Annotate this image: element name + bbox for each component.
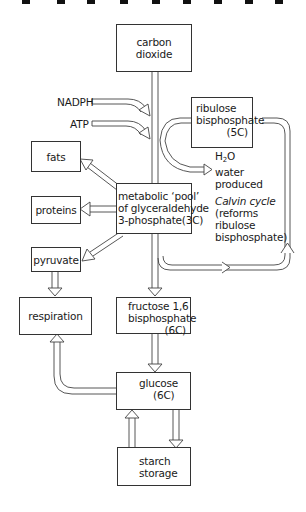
node-carbon-dioxide: carbon dioxide — [116, 24, 192, 72]
ribulose-line2: bisphosphate — [196, 114, 252, 126]
arrow-pool-to-fats — [80, 159, 120, 190]
arrow-starch-to-glucose — [125, 410, 139, 447]
water-line2: water — [215, 166, 263, 178]
ribulose-line3: (5C) — [196, 126, 252, 138]
carbon-dioxide-line1: carbon — [136, 36, 173, 48]
annotation-water-produced: H2O water produced — [215, 150, 263, 190]
water-line3: produced — [215, 178, 263, 190]
arrow-atp — [92, 121, 150, 139]
arrow-nadph — [92, 99, 150, 116]
node-starch-storage: starch storage — [117, 447, 191, 486]
label-atp: ATP — [70, 118, 89, 130]
calvin-line2: (reforms — [215, 207, 287, 219]
node-proteins: proteins — [31, 196, 81, 224]
calvin-line3: ribulose — [215, 219, 287, 231]
respiration-label: respiration — [28, 310, 82, 322]
pyruvate-label: pyruvate — [33, 254, 78, 266]
arrow-pool-to-proteins — [80, 202, 116, 216]
pool-line2: of glyceraldehyde — [118, 202, 191, 214]
node-fats: fats — [31, 141, 81, 172]
fructose-line2: bisphosphate — [128, 312, 190, 324]
node-glucose: glucose (6C) — [116, 372, 191, 410]
arrow-pool-to-pyruvate — [82, 232, 123, 261]
ribulose-line1: ribulose — [196, 102, 252, 114]
starch-line2: storage — [139, 467, 190, 479]
calvin-line1: Calvin cycle — [215, 195, 287, 207]
water-formula: H2O — [215, 150, 263, 166]
starch-line1: starch — [139, 455, 190, 467]
arrow-fructose-to-glucose — [148, 334, 162, 372]
water-formula-h: H — [215, 150, 223, 162]
arrow-pyruvate-to-respiration — [48, 272, 62, 296]
node-ribulose-bisphosphate: ribulose bisphosphate (5C) — [191, 97, 253, 148]
carbon-dioxide-line2: dioxide — [136, 48, 173, 60]
node-fructose-bisphosphate: fructose 1,6 bisphosphate (6C) — [116, 297, 191, 334]
node-respiration: respiration — [19, 297, 92, 335]
fats-label: fats — [47, 151, 66, 163]
glucose-line2: (6C) — [139, 389, 190, 401]
fructose-line3: (6C) — [128, 324, 190, 336]
node-metabolic-pool: metabolic ‘pool’ of glyceraldehyde 3-pho… — [116, 183, 192, 234]
fructose-line1: fructose 1,6 — [128, 300, 190, 312]
annotation-calvin-cycle: Calvin cycle (reforms ribulose bisphosph… — [215, 195, 287, 243]
arrow-glucose-to-respiration — [50, 334, 116, 394]
pool-line3: 3-phosphate(3C) — [118, 214, 191, 226]
water-formula-o: O — [227, 150, 235, 162]
node-pyruvate: pyruvate — [31, 247, 81, 272]
proteins-label: proteins — [35, 204, 76, 216]
label-nadph: NADPH — [57, 96, 93, 108]
calvin-line4: bisphosphate) — [215, 231, 287, 243]
pool-line1: metabolic ‘pool’ — [118, 190, 191, 202]
arrow-glucose-to-starch — [169, 410, 183, 448]
glucose-line1: glucose — [139, 377, 190, 389]
